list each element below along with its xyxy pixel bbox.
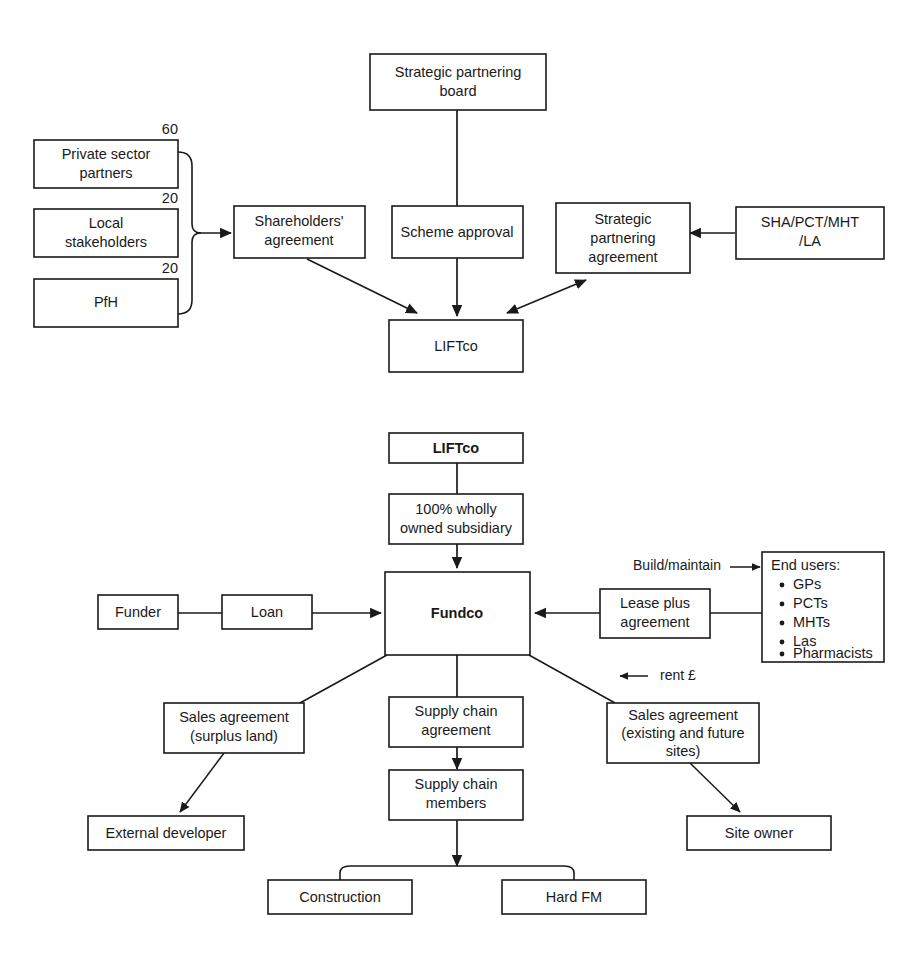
label-rent: rent £ — [660, 667, 696, 683]
label-sales-existing-line2: (existing and future — [621, 725, 744, 741]
bottom-diagram-group: Build/maintain rent £ LIFTco — [88, 433, 884, 914]
label-private-sector-partners-line1: Private sector — [62, 146, 151, 162]
edge-fundco-to-sales-surplus — [300, 655, 387, 703]
label-sha-pct-mht-la-line1: SHA/PCT/MHT — [761, 214, 859, 230]
label-private-sector-partners-line2: partners — [79, 165, 132, 181]
label-shareholders-agreement-line1: Shareholders' — [254, 213, 343, 229]
label-strategic-partnering-board-line2: board — [439, 83, 476, 99]
end-users-item-2: MHTs — [793, 614, 830, 630]
bullet-icon — [780, 621, 785, 626]
label-local-stakeholders-line1: Local — [89, 215, 124, 231]
label-subsidiary-line2: owned subsidiary — [400, 520, 513, 536]
label-construction: Construction — [299, 889, 380, 905]
label-liftco-top: LIFTco — [434, 338, 478, 354]
label-sc-members-line2: members — [426, 795, 486, 811]
label-fundco: Fundco — [431, 605, 483, 621]
label-lease-plus-line1: Lease plus — [620, 595, 690, 611]
label-lease-plus-line2: agreement — [620, 614, 689, 630]
end-users-item-0: GPs — [793, 576, 821, 592]
label-pfh: PfH — [94, 294, 118, 310]
label-sc-members-line1: Supply chain — [414, 776, 497, 792]
shareholding-pfh: 20 — [162, 260, 178, 276]
label-spa-line1: Strategic — [594, 211, 651, 227]
label-hard-fm: Hard FM — [546, 889, 602, 905]
bullet-icon — [780, 583, 785, 588]
label-shareholders-agreement-line2: agreement — [264, 232, 333, 248]
label-local-stakeholders-line2: stakeholders — [65, 234, 147, 250]
end-users-item-4: Pharmacists — [793, 645, 873, 661]
bullet-icon — [780, 602, 785, 607]
label-site-owner: Site owner — [725, 825, 794, 841]
label-external-developer: External developer — [106, 825, 227, 841]
label-scheme-approval: Scheme approval — [401, 224, 514, 240]
end-users-item-1: PCTs — [793, 595, 828, 611]
label-subsidiary-line1: 100% wholly — [415, 501, 497, 517]
label-sc-agreement-line2: agreement — [421, 722, 490, 738]
label-spa-line2: partnering — [590, 230, 655, 246]
construction-hardfm-brace — [340, 866, 574, 880]
shareholding-local-stakeholders: 20 — [162, 190, 178, 206]
label-end-users-title: End users: — [771, 557, 840, 573]
edge-sales-surplus-to-external-developer — [180, 753, 224, 812]
label-liftco-bottom: LIFTco — [433, 440, 480, 456]
label-sales-surplus-line1: Sales agreement — [179, 709, 289, 725]
edge-fundco-to-sales-existing — [529, 655, 615, 703]
label-sales-existing-line1: Sales agreement — [628, 707, 738, 723]
label-funder: Funder — [115, 604, 161, 620]
edge-sales-existing-to-site-owner — [690, 763, 740, 812]
top-diagram-group: Strategic partnering board Private secto… — [34, 54, 884, 372]
label-build-maintain: Build/maintain — [633, 557, 721, 573]
label-sales-surplus-line2: (surplus land) — [190, 728, 278, 744]
edge-liftco-spa-bidirectional — [507, 280, 586, 313]
label-spa-line3: agreement — [588, 249, 657, 265]
bullet-icon — [780, 652, 785, 657]
label-sc-agreement-line1: Supply chain — [414, 703, 497, 719]
diagram-root: Strategic partnering board Private secto… — [0, 0, 922, 965]
edge-shareholders-agreement-to-liftco — [307, 259, 417, 313]
bullet-icon — [780, 640, 785, 645]
flow-diagram-canvas: Strategic partnering board Private secto… — [0, 0, 922, 965]
label-sha-pct-mht-la-line2: /LA — [799, 233, 821, 249]
label-loan: Loan — [251, 604, 283, 620]
label-strategic-partnering-board-line1: Strategic partnering — [395, 64, 522, 80]
label-sales-existing-line3: sites) — [666, 743, 701, 759]
shareholding-private-sector-partners: 60 — [162, 121, 178, 137]
